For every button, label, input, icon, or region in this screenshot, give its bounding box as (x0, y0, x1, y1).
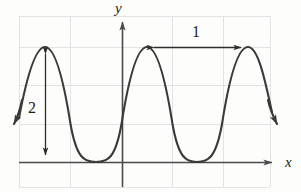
period-measure-label: 1 (192, 24, 200, 40)
graph-figure: y x 2 1 (0, 0, 301, 192)
curve-right-arrow (268, 100, 277, 124)
graph-canvas (0, 0, 301, 192)
y-axis-label: y (115, 1, 122, 16)
grid-vertical-lines (20, 16, 271, 187)
sine-curve (19, 47, 272, 162)
amplitude-measure-label: 2 (28, 100, 36, 116)
x-axis-label: x (285, 155, 292, 170)
